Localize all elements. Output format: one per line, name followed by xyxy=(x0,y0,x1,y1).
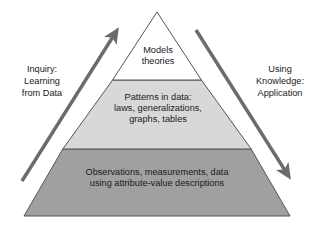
pyramid-tier-top xyxy=(113,12,202,80)
application-arrow-label: Using Knowledge: Application xyxy=(244,64,316,99)
pyramid-tier-middle xyxy=(63,80,251,149)
pyramid-tier-base xyxy=(24,149,290,216)
inquiry-arrow-label: Inquiry: Learning from Data xyxy=(6,64,78,99)
pyramid-graphic xyxy=(0,0,317,225)
knowledge-pyramid-diagram: Models theories Patterns in data: laws, … xyxy=(0,0,317,225)
